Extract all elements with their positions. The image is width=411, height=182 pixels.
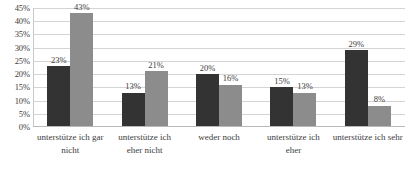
y-axis-tick-label: 35%: [2, 30, 30, 39]
bar-value-label: 13%: [125, 82, 141, 91]
bar-wrapper: 23%: [47, 8, 70, 127]
bar[interactable]: [47, 66, 70, 127]
plot-area: 23%43%13%21%20%16%15%13%29%8%: [33, 8, 405, 127]
y-axis-tick-label: 45%: [2, 4, 30, 13]
bar-wrapper: 21%: [145, 8, 168, 127]
bar[interactable]: [70, 13, 93, 127]
bar-group-bars: 15%13%: [256, 8, 330, 127]
bar[interactable]: [368, 106, 391, 127]
bar-value-label: 21%: [148, 61, 164, 70]
bar-wrapper: 13%: [122, 8, 145, 127]
bar-group-bars: 29%8%: [331, 8, 405, 127]
bar-groups: 23%43%13%21%20%16%15%13%29%8%: [33, 8, 405, 127]
bar-chart: 45%40%35%30%25%20%15%10%5%0% 23%43%13%21…: [0, 0, 411, 182]
bar-wrapper: 13%: [293, 8, 316, 127]
y-axis-tick-label: 0%: [2, 123, 30, 132]
bar-value-label: 23%: [51, 56, 67, 65]
x-axis-category-label: unterstütze ich eher: [256, 131, 330, 157]
bar-value-label: 15%: [274, 77, 290, 86]
x-axis-category-label: unterstütze ich eher nicht: [107, 131, 181, 157]
y-axis-tick-label: 40%: [2, 17, 30, 26]
bar-group: 20%16%: [182, 8, 256, 127]
bar-wrapper: 15%: [270, 8, 293, 127]
bar-wrapper: 16%: [219, 8, 242, 127]
bar-group: 23%43%: [33, 8, 107, 127]
bar-wrapper: 29%: [345, 8, 368, 127]
x-axis-category-label: weder noch: [182, 131, 256, 157]
x-axis-category-label: unterstütze ich gar nicht: [33, 131, 107, 157]
bar[interactable]: [270, 87, 293, 127]
bar-group: 29%8%: [331, 8, 405, 127]
bar-value-label: 13%: [297, 82, 313, 91]
bar-value-label: 16%: [223, 74, 239, 83]
bar-value-label: 29%: [349, 40, 365, 49]
bar-group-bars: 23%43%: [33, 8, 107, 127]
bar-group: 15%13%: [256, 8, 330, 127]
y-axis-tick-label: 30%: [2, 43, 30, 52]
bar-value-label: 8%: [374, 95, 385, 104]
bar-value-label: 43%: [74, 3, 90, 12]
bar-wrapper: 43%: [70, 8, 93, 127]
y-axis-tick-labels: 45%40%35%30%25%20%15%10%5%0%: [0, 8, 30, 127]
bar[interactable]: [293, 93, 316, 127]
bar[interactable]: [345, 50, 368, 127]
y-axis-tick-label: 25%: [2, 57, 30, 66]
bar-group-bars: 20%16%: [182, 8, 256, 127]
y-axis-tick-label: 20%: [2, 70, 30, 79]
bar-group-bars: 13%21%: [107, 8, 181, 127]
y-axis-tick-label: 5%: [2, 110, 30, 119]
bar-value-label: 20%: [200, 64, 216, 73]
x-axis-line: [33, 126, 405, 127]
bar[interactable]: [196, 74, 219, 127]
bar-group: 13%21%: [107, 8, 181, 127]
x-axis-category-labels: unterstütze ich gar nichtunterstütze ich…: [33, 131, 405, 157]
x-axis-category-label: unterstütze ich sehr: [331, 131, 405, 157]
bar[interactable]: [219, 85, 242, 127]
y-axis-tick-label: 10%: [2, 96, 30, 105]
bar-wrapper: 8%: [368, 8, 391, 127]
y-axis-tick-label: 15%: [2, 83, 30, 92]
bar-wrapper: 20%: [196, 8, 219, 127]
bar[interactable]: [145, 71, 168, 127]
bar[interactable]: [122, 93, 145, 127]
